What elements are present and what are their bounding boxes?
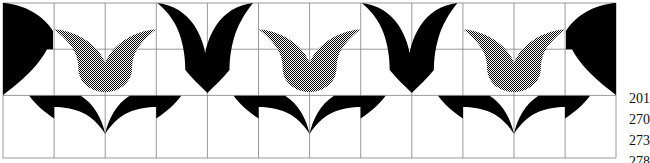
row-label-2: 270 bbox=[624, 109, 650, 130]
figure-panel: 201 270 273 278 bbox=[0, 0, 650, 163]
row-label-3: 273 bbox=[624, 130, 650, 151]
pattern-figure bbox=[0, 0, 619, 161]
pattern-svg bbox=[0, 0, 619, 161]
row-label-4: 278 bbox=[624, 151, 650, 163]
row-number-labels: 201 270 273 278 bbox=[624, 88, 650, 163]
row-label-1: 201 bbox=[624, 88, 650, 109]
